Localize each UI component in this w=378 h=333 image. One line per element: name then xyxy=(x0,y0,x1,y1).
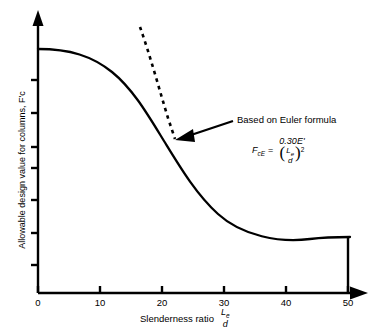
x-axis-title: Slenderness ratio Le d xyxy=(140,308,230,329)
x-tick-label-40: 40 xyxy=(271,297,301,308)
callout-arrow-icon xyxy=(175,121,233,142)
x-axis-title-text: Slenderness ratio xyxy=(140,313,214,324)
formula-lhs: FcE xyxy=(252,145,265,157)
y-axis xyxy=(33,10,44,293)
x-tick-label-20: 20 xyxy=(147,297,177,308)
euler-formula: FcE = 0.30E' ( Le d ) 2 xyxy=(252,136,307,165)
inner-denominator: d xyxy=(288,157,292,165)
y-axis-title: Allowable design value for columns, F'c xyxy=(17,50,27,290)
x-tick-label-50: 50 xyxy=(333,297,363,308)
x-tick-label-10: 10 xyxy=(85,297,115,308)
x-tick-label-0: 0 xyxy=(23,297,53,308)
euler-annotation-label: Based on Euler formula xyxy=(237,114,336,125)
x-axis-fraction: Le d xyxy=(221,308,230,329)
formula-fraction: 0.30E' ( Le d ) 2 xyxy=(277,136,306,165)
x-axis-fraction-numerator: Le xyxy=(221,308,230,319)
formula-equals: = xyxy=(268,145,273,155)
formula-inner-fraction: Le d xyxy=(285,147,295,165)
formula-exponent: 2 xyxy=(301,147,305,154)
formula-denominator: ( Le d ) 2 xyxy=(280,146,305,165)
chart-figure: 0 10 20 30 40 50 Allowable design value … xyxy=(0,0,378,333)
chart-plot-area xyxy=(0,0,378,333)
curve-euler-dashed xyxy=(140,27,175,139)
x-axis-fraction-denominator: d xyxy=(223,320,228,329)
